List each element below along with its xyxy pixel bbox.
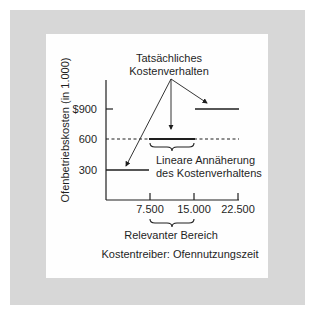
- cost-behavior-chart: Tatsächliches Kostenverhalten $900 600 3…: [0, 0, 313, 314]
- y-axis-title: Ofenbetriebskosten (in 1.000): [59, 58, 71, 203]
- arrow-to-300: [126, 79, 171, 166]
- relevant-range-brace: [150, 219, 194, 227]
- relevant-range-label: Relevanter Bereich: [124, 229, 218, 241]
- arrow-to-900: [171, 79, 207, 103]
- x-axis-title: Kostentreiber: Ofennutzungszeit: [101, 248, 258, 260]
- linear-label-line2: des Kostenverhaltens: [156, 167, 262, 179]
- actual-cost-label-line2: Kostenverhalten: [129, 65, 209, 77]
- x-label-22500: 22.500: [221, 203, 255, 215]
- x-label-15000: 15.000: [177, 203, 211, 215]
- actual-cost-label-line1: Tatsächliches: [136, 52, 203, 64]
- x-label-7500: 7.500: [136, 203, 164, 215]
- linear-label-line1: Lineare Annäherung: [156, 154, 255, 166]
- y-label-600: 600: [79, 133, 97, 145]
- y-label-900: $900: [73, 103, 97, 115]
- y-label-300: 300: [79, 164, 97, 176]
- linear-brace: [150, 143, 194, 151]
